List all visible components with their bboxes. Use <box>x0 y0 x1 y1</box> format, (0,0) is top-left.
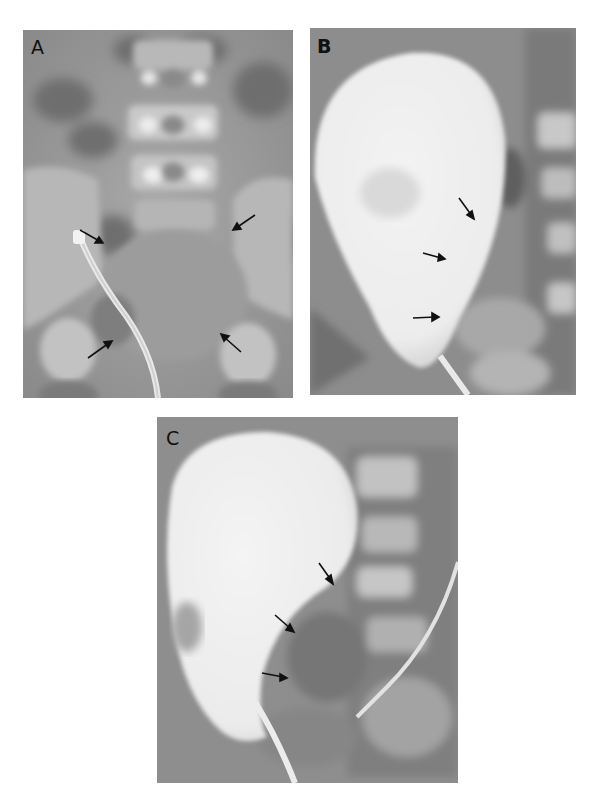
bladder-cystogram-b <box>310 28 576 395</box>
xray-panel-c: C <box>157 417 458 783</box>
pelvis-radiograph <box>23 30 293 398</box>
bladder-oblique-c <box>157 417 458 783</box>
panel-label-b: B <box>317 37 331 56</box>
xray-panel-b: B <box>310 28 576 395</box>
xray-panel-a: A <box>23 30 293 398</box>
panel-label-a: A <box>31 38 44 57</box>
panel-label-c: C <box>166 429 179 448</box>
